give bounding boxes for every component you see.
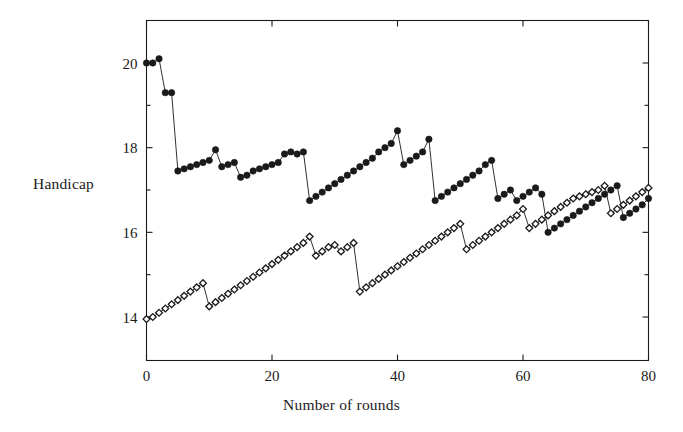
- filled-circle-series-marker: [501, 191, 507, 197]
- filled-circle-series-marker: [507, 187, 513, 193]
- filled-circle-series-marker: [319, 189, 325, 195]
- filled-circle-series-marker: [614, 183, 620, 189]
- filled-circle-series-marker: [306, 197, 312, 203]
- x-tick-label: 40: [390, 368, 405, 384]
- filled-circle-series-marker: [589, 200, 595, 206]
- filled-circle-series-marker: [514, 197, 520, 203]
- x-tick-label: 80: [641, 368, 656, 384]
- open-diamond-series-marker: [281, 252, 288, 259]
- filled-circle-series-marker: [194, 161, 200, 167]
- open-diamond-series-marker: [394, 263, 401, 270]
- open-diamond-series-marker: [601, 182, 608, 189]
- filled-circle-series-marker: [150, 60, 156, 66]
- open-diamond-series: [143, 182, 652, 322]
- filled-circle-series-marker: [357, 164, 363, 170]
- filled-circle-series-marker: [570, 212, 576, 218]
- open-diamond-series-marker: [375, 276, 382, 283]
- open-diamond-series-marker: [187, 288, 194, 295]
- open-diamond-series-marker: [294, 244, 301, 251]
- open-diamond-series-marker: [432, 237, 439, 244]
- open-diamond-series-marker: [388, 267, 395, 274]
- open-diamond-series-marker: [614, 206, 621, 213]
- open-diamond-series-marker: [488, 229, 495, 236]
- open-diamond-series-marker: [313, 252, 320, 259]
- open-diamond-series-marker: [174, 297, 181, 304]
- filled-circle-series-marker: [520, 193, 526, 199]
- filled-circle-series-marker: [225, 161, 231, 167]
- y-tick-label: 20: [123, 56, 138, 72]
- y-tick-label: 18: [123, 140, 138, 156]
- open-diamond-series-marker: [156, 309, 163, 316]
- open-diamond-series-marker: [319, 248, 326, 255]
- x-tick-label: 20: [265, 368, 280, 384]
- axis-ticks: [147, 21, 649, 361]
- filled-circle-series-marker: [143, 60, 149, 66]
- open-diamond-series-marker: [250, 273, 257, 280]
- filled-circle-series-marker: [564, 216, 570, 222]
- filled-circle-series-marker: [313, 193, 319, 199]
- chart-figure: Handicap Number of rounds 02040608014161…: [0, 0, 683, 432]
- open-diamond-series-marker: [200, 280, 207, 287]
- open-diamond-series-marker: [206, 303, 213, 310]
- data-series: [143, 56, 652, 323]
- filled-circle-series-marker: [332, 180, 338, 186]
- open-diamond-series-marker: [469, 242, 476, 249]
- open-diamond-series-marker: [425, 242, 432, 249]
- filled-circle-series-marker: [432, 197, 438, 203]
- open-diamond-series-marker: [419, 246, 426, 253]
- filled-circle-series-marker: [350, 168, 356, 174]
- open-diamond-series-marker: [564, 199, 571, 206]
- filled-circle-series-marker: [595, 195, 601, 201]
- filled-circle-series-marker: [645, 195, 651, 201]
- filled-circle-series-marker: [363, 159, 369, 165]
- open-diamond-series-marker: [538, 216, 545, 223]
- open-diamond-series-marker: [231, 286, 238, 293]
- filled-circle-series-marker: [388, 140, 394, 146]
- filled-circle-series-marker: [482, 161, 488, 167]
- filled-circle-series-marker: [250, 168, 256, 174]
- open-diamond-series-marker: [557, 204, 564, 211]
- filled-circle-series-marker: [419, 149, 425, 155]
- open-diamond-series-marker: [193, 284, 200, 291]
- open-diamond-series-marker: [168, 301, 175, 308]
- y-tick-label: 14: [123, 310, 139, 326]
- filled-circle-series-marker: [626, 210, 632, 216]
- filled-circle-series-marker: [175, 168, 181, 174]
- filled-circle-series-marker: [156, 56, 162, 62]
- open-diamond-series-marker: [363, 284, 370, 291]
- open-diamond-series-marker: [526, 225, 533, 232]
- filled-circle-series-marker: [244, 172, 250, 178]
- filled-circle-series-marker: [162, 89, 168, 95]
- open-diamond-series-marker: [551, 208, 558, 215]
- filled-circle-series-marker: [263, 164, 269, 170]
- open-diamond-series-marker: [369, 280, 376, 287]
- filled-circle-series-marker: [300, 149, 306, 155]
- open-diamond-series-marker: [269, 261, 276, 268]
- x-tick-label: 0: [143, 368, 151, 384]
- x-tick-label: 60: [516, 368, 531, 384]
- open-diamond-series-marker: [350, 240, 357, 247]
- open-diamond-series-marker: [476, 237, 483, 244]
- open-diamond-series-marker: [275, 256, 282, 263]
- open-diamond-series-marker: [225, 290, 232, 297]
- filled-circle-series-marker: [557, 221, 563, 227]
- filled-circle-series-marker: [539, 191, 545, 197]
- filled-circle-series-marker: [551, 225, 557, 231]
- filled-circle-series-marker: [382, 144, 388, 150]
- open-diamond-series-marker: [344, 244, 351, 251]
- filled-circle-series-marker: [639, 202, 645, 208]
- filled-circle-series-marker: [281, 151, 287, 157]
- open-diamond-series-marker: [262, 265, 269, 272]
- open-diamond-series-marker: [495, 225, 502, 232]
- open-diamond-series-marker: [218, 295, 225, 302]
- filled-circle-series-marker: [451, 185, 457, 191]
- filled-circle-series-marker: [212, 147, 218, 153]
- open-diamond-series-marker: [382, 271, 389, 278]
- open-diamond-series-marker: [457, 220, 464, 227]
- filled-circle-series-marker: [470, 172, 476, 178]
- filled-circle-series-marker: [338, 176, 344, 182]
- filled-circle-series-marker: [231, 159, 237, 165]
- filled-circle-series-marker: [413, 153, 419, 159]
- filled-circle-series-marker: [438, 193, 444, 199]
- filled-circle-series-marker: [256, 166, 262, 172]
